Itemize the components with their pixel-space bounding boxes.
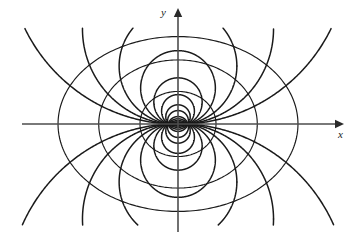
field-diagram-canvas <box>0 0 354 239</box>
dipole-field-figure: y x <box>0 0 354 239</box>
x-axis-label: x <box>338 129 343 140</box>
x-axis-arrowhead <box>335 120 344 128</box>
y-axis-arrowhead <box>174 8 182 17</box>
y-axis-label: y <box>161 7 166 18</box>
